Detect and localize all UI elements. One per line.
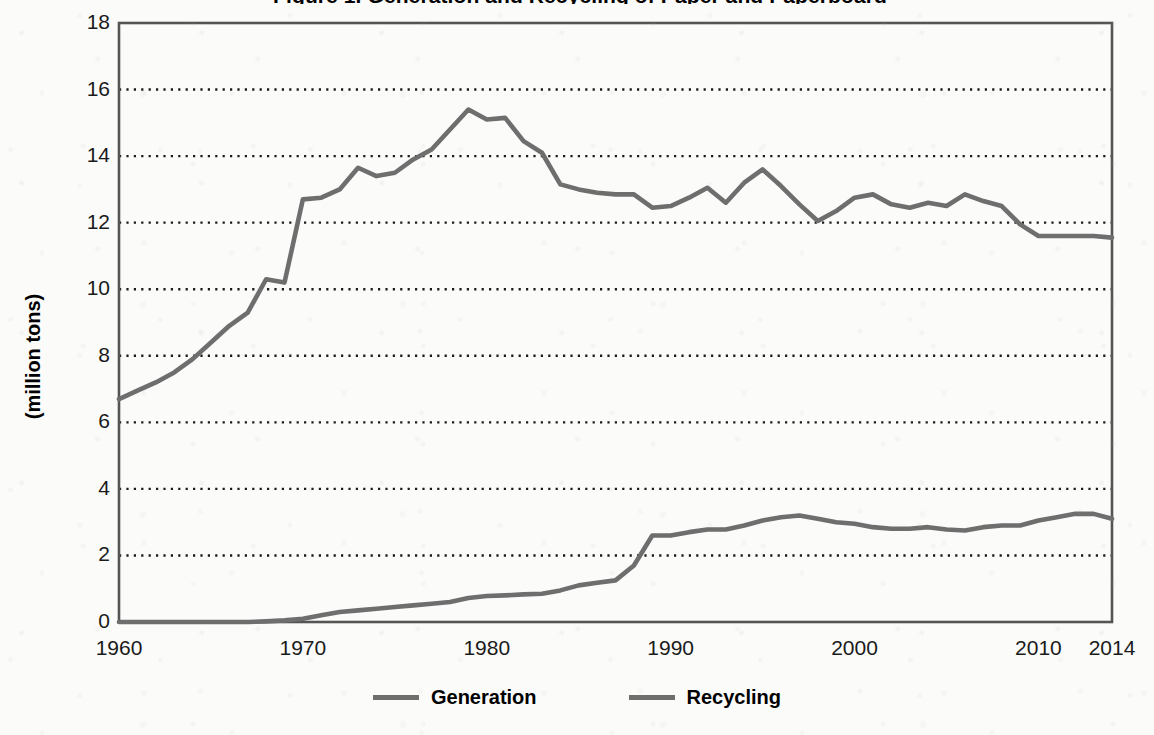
x-tick-label: 1960 xyxy=(74,636,164,660)
x-tick-label: 2000 xyxy=(810,636,900,660)
legend-item-generation: Generation xyxy=(373,686,537,709)
y-tick-label: 4 xyxy=(62,476,110,500)
y-tick-label: 14 xyxy=(62,143,110,167)
legend-label-recycling: Recycling xyxy=(687,686,781,709)
y-tick-label: 8 xyxy=(62,343,110,367)
recycling-line-swatch-icon xyxy=(629,695,675,700)
x-tick-label: 1990 xyxy=(626,636,716,660)
y-tick-label: 0 xyxy=(62,609,110,633)
chart-title: Figure 1. Generation and Recycling of Pa… xyxy=(60,0,1100,4)
x-tick-label: 1970 xyxy=(258,636,348,660)
y-axis-title: (million tons) xyxy=(22,277,45,437)
y-tick-label: 12 xyxy=(62,210,110,234)
series-line-recycling xyxy=(119,514,1112,622)
x-tick-label: 2014 xyxy=(1067,636,1154,660)
y-tick-label: 16 xyxy=(62,77,110,101)
chart-container: Figure 1. Generation and Recycling of Pa… xyxy=(0,0,1154,735)
legend-item-recycling: Recycling xyxy=(629,686,781,709)
line-chart-plot xyxy=(0,0,1154,735)
chart-legend: Generation Recycling xyxy=(0,686,1154,709)
y-tick-label: 6 xyxy=(62,409,110,433)
y-tick-label: 10 xyxy=(62,276,110,300)
y-tick-label: 2 xyxy=(62,542,110,566)
x-tick-label: 1980 xyxy=(442,636,532,660)
generation-line-swatch-icon xyxy=(373,695,419,700)
data-series xyxy=(119,110,1112,622)
gridlines xyxy=(119,90,1112,556)
legend-label-generation: Generation xyxy=(431,686,537,709)
y-tick-label: 18 xyxy=(62,10,110,34)
